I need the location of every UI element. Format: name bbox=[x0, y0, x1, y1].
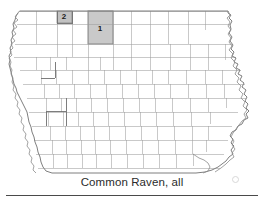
caption-block: Common Raven, all bbox=[0, 176, 264, 206]
southeast-tip-detail bbox=[193, 154, 210, 173]
figure-caption: Common Raven, all bbox=[0, 176, 264, 188]
caption-rule bbox=[6, 195, 258, 196]
county-lines bbox=[14, 11, 246, 168]
county-marker-2-label: 2 bbox=[58, 12, 70, 21]
county-lines-accent bbox=[41, 11, 72, 126]
map-svg bbox=[0, 0, 264, 178]
iowa-county-map: 2 1 bbox=[0, 0, 264, 178]
figure-page: 2 1 Common Raven, all bbox=[0, 0, 264, 206]
county-marker-1-label: 1 bbox=[94, 24, 106, 33]
state-outline bbox=[9, 11, 249, 173]
